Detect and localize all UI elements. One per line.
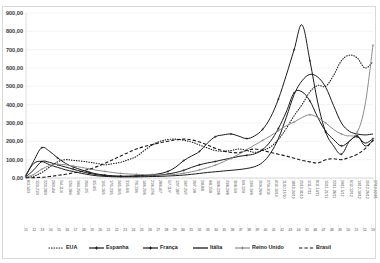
- x-axis-tick-label: 27/12-02/01: [373, 180, 377, 199]
- x-axis-tick-label: 20/12-26/12: [365, 180, 369, 199]
- x-axis-tick-label: 29/3-4/4: [51, 180, 55, 193]
- data-point-marker: [309, 114, 311, 116]
- x-axis-tick-label: 1/11-7/11: [307, 180, 311, 194]
- week-number-label: 25: [140, 228, 144, 232]
- week-number-label: 36: [231, 228, 235, 232]
- legend-item-espanha[interactable]: Espanha: [89, 244, 129, 250]
- x-axis-tick-label: 8/3-14/3: [26, 180, 30, 193]
- week-number-label: 13: [41, 228, 45, 232]
- x-axis-tick-label: 15/11-21/11: [324, 180, 328, 198]
- week-number-label: 39: [256, 228, 260, 232]
- x-axis-tick-label: 26/4-2/5: [84, 180, 88, 193]
- week-number-label: 41: [272, 228, 276, 232]
- week-number-label: 27: [156, 228, 160, 232]
- x-axis-labels-group: 8/3-14/315/3-21/322/3-28/329/3-4/45/4-11…: [26, 178, 377, 199]
- x-axis-tick-label: 6/9-12/9: [241, 180, 245, 193]
- week-number-label: 46: [313, 228, 317, 232]
- week-number-label: 52: [363, 228, 367, 232]
- week-number-label: 14: [49, 228, 53, 232]
- x-axis-tick-label: 28/6-4/7: [158, 180, 162, 193]
- week-number-label: 31: [189, 228, 193, 232]
- y-axis-tick-label: 400,00: [6, 102, 23, 108]
- week-number-label: 28: [165, 228, 169, 232]
- data-point-marker: [198, 169, 200, 171]
- data-point-marker: [119, 172, 121, 174]
- week-number-label: 44: [297, 228, 301, 232]
- x-axis-tick-label: 14/6-20/6: [142, 180, 146, 195]
- data-point-marker: [340, 145, 342, 147]
- legend-group[interactable]: EUAEspanhaFrançaItáliaReino UnidoBrasil: [49, 244, 331, 250]
- gridlines-group: [26, 13, 373, 178]
- x-axis-tick-label: 12/7-18/7: [175, 180, 179, 195]
- data-point-marker: [246, 154, 248, 156]
- week-number-label: 22: [115, 228, 119, 232]
- x-axis-tick-label: 19/4-25/4: [76, 180, 80, 195]
- x-axis-tick-label: 19/7-25/7: [183, 180, 187, 195]
- x-axis-tick-label: 25/10-31/10: [299, 180, 303, 199]
- x-axis-tick-label: 8/11-14/11: [315, 180, 319, 196]
- x-axis-tick-label: 6/12-12/12: [349, 180, 353, 197]
- y-axis-tick-label: 200,00: [6, 138, 23, 144]
- x-axis-tick-label: 26/7-1/8: [192, 180, 196, 193]
- legend-item-it-lia[interactable]: Itália: [193, 244, 223, 250]
- x-axis-tick-label: 13/12-19/12: [357, 180, 361, 199]
- week-number-label: 30: [181, 228, 185, 232]
- x-axis-tick-label: 9/8-15/8: [208, 180, 212, 193]
- data-point-marker: [183, 169, 185, 171]
- y-axis-tick-label: 700,00: [6, 47, 23, 53]
- data-point-marker: [230, 133, 232, 135]
- data-point-marker: [246, 137, 248, 139]
- week-number-label: 47: [322, 228, 326, 232]
- data-point-marker: [309, 60, 311, 62]
- data-point-marker: [72, 168, 74, 170]
- data-point-marker: [198, 164, 200, 166]
- week-number-label: 12: [32, 228, 36, 232]
- data-point-marker: [214, 160, 216, 162]
- y-axis-tick-label: 0,00: [12, 175, 23, 181]
- series-group: [25, 25, 374, 179]
- x-axis-tick-label: 30/8-5/9: [233, 180, 237, 193]
- x-axis-tick-label: 5/7-11/7: [167, 180, 171, 193]
- legend-label: EUA: [66, 244, 77, 250]
- y-axis-labels-group: 0,00100,00200,00300,00400,00500,00600,00…: [6, 10, 23, 181]
- x-axis-tick-label: 2/8-8/8: [200, 180, 204, 191]
- legend-label: França: [160, 244, 179, 250]
- legend-item-brasil[interactable]: Brasil: [299, 244, 331, 250]
- legend-item-reino-unido[interactable]: Reino Unido: [235, 244, 284, 250]
- y-axis-tick-label: 900,00: [6, 10, 23, 16]
- week-number-label: 48: [330, 228, 334, 232]
- chart-plot-area: 0,00100,00200,00300,00400,00500,00600,00…: [0, 0, 380, 263]
- week-number-label: 20: [99, 228, 103, 232]
- week-number-label: 37: [239, 228, 243, 232]
- week-number-label: 19: [90, 228, 94, 232]
- legend-label: Brasil: [316, 244, 331, 250]
- series-line-reino-unido: [26, 45, 373, 177]
- week-number-label: 43: [289, 228, 293, 232]
- x-axis-tick-label: 5/4-11/4: [59, 180, 63, 193]
- x-axis-tick-label: 31/5-6/6: [125, 180, 129, 193]
- week-number-label: 38: [247, 228, 251, 232]
- x-axis-tick-label: 20/9-26/9: [258, 180, 262, 195]
- week-number-label: 50: [346, 228, 350, 232]
- x-axis-tick-label: 3/5-9/5: [92, 180, 96, 191]
- data-point-marker: [372, 44, 374, 46]
- week-number-label: 24: [132, 228, 136, 232]
- week-number-label: 53: [371, 228, 375, 232]
- week-number-label: 18: [82, 228, 86, 232]
- x-axis-tick-label: 21/6-27/6: [150, 180, 154, 195]
- y-axis-tick-label: 600,00: [6, 65, 23, 71]
- legend-item-fran-a[interactable]: França: [143, 244, 179, 250]
- week-number-label: 34: [214, 228, 218, 232]
- y-axis-tick-label: 500,00: [6, 83, 23, 89]
- week-number-label: 17: [74, 228, 78, 232]
- x-axis-tick-label: 11/10-17/10: [282, 180, 286, 198]
- y-axis-tick-label: 800,00: [6, 28, 23, 34]
- week-number-label: 11: [24, 228, 28, 232]
- week-number-label: 35: [223, 228, 227, 232]
- data-point-marker: [88, 168, 90, 170]
- data-point-marker: [135, 173, 137, 175]
- legend-label: Espanha: [106, 244, 129, 250]
- data-point-marker: [104, 170, 106, 172]
- legend-item-eua[interactable]: EUA: [49, 244, 77, 250]
- week-number-row: 1112131415161718192021222324252627282930…: [24, 224, 375, 232]
